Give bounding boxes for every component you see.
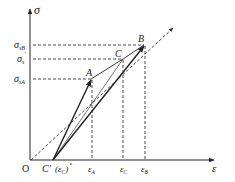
x-tick-eps-A: εA bbox=[88, 164, 96, 175]
svg-text:εC: εC bbox=[120, 164, 128, 175]
x-axis-label: ε bbox=[212, 162, 217, 174]
line-A-to-C bbox=[91, 59, 123, 79]
svg-text:*: * bbox=[69, 162, 72, 168]
svg-text:C′: C′ bbox=[42, 163, 52, 174]
stress-strain-diagram: σ ε O σsB σs ′ σsA εA εC εB A C B C′ (εC… bbox=[0, 0, 235, 182]
svg-text:′: ′ bbox=[24, 50, 26, 58]
svg-text:(εC): (εC) bbox=[55, 164, 68, 175]
x-tick-eps-B: εB bbox=[141, 164, 149, 175]
svg-text:εA: εA bbox=[88, 164, 96, 175]
x-tick-eps-C: εC bbox=[120, 164, 128, 175]
line-C-to-B bbox=[123, 45, 144, 59]
y-tick-sigma-sA: σsA bbox=[14, 73, 25, 85]
y-tick-sigma-s-prime: σs ′ bbox=[17, 50, 26, 65]
point-C-prime-label: C′ (εC) * bbox=[42, 162, 72, 175]
point-C-label: C bbox=[115, 48, 122, 59]
point-A-label: A bbox=[85, 67, 93, 78]
line-cprime-to-B bbox=[53, 46, 144, 160]
svg-text:σsA: σsA bbox=[14, 73, 25, 85]
svg-text:εB: εB bbox=[141, 164, 149, 175]
dashed-elastic-line bbox=[31, 28, 173, 160]
point-B-label: B bbox=[138, 33, 144, 44]
y-axis-label: σ bbox=[34, 3, 41, 17]
origin-label: O bbox=[22, 163, 29, 174]
